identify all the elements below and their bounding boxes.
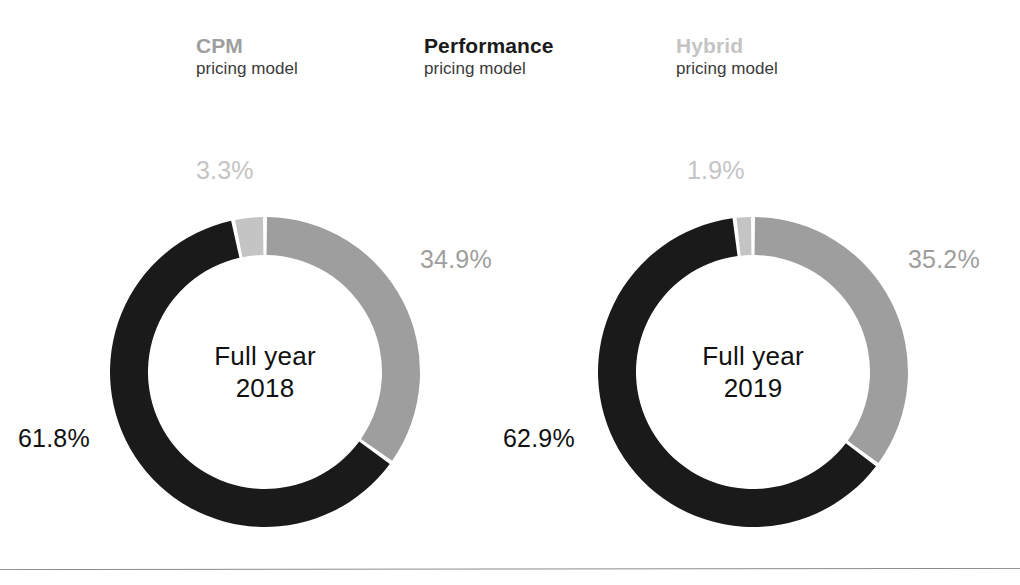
donut-segments-2018 [110,217,420,527]
donut-segment-hybrid-2018 [235,217,263,257]
value-label-performance-2019: 62.9% [503,424,575,453]
donut-chart-2018: Full year 2018 [105,212,425,532]
bottom-divider-line [0,568,1020,570]
donut-svg-2018 [105,212,425,532]
value-label-cpm-2019: 35.2% [908,245,980,274]
value-label-cpm-2018: 34.9% [420,245,492,274]
donut-segment-cpm-2018 [267,217,420,461]
value-label-hybrid-2019: 1.9% [687,156,745,185]
donut-chart-2019: Full year 2019 [593,212,913,532]
donut-chart-group: Full year 2018 3.3% 34.9% 61.8% Full yea… [0,0,1020,585]
donut-segment-hybrid-2019 [737,217,752,256]
donut-segment-cpm-2019 [755,217,908,463]
donut-svg-2019 [593,212,913,532]
value-label-hybrid-2018: 3.3% [196,156,254,185]
bottom-divider [0,568,1020,570]
value-label-performance-2018: 61.8% [18,424,90,453]
donut-segments-2019 [598,217,908,527]
